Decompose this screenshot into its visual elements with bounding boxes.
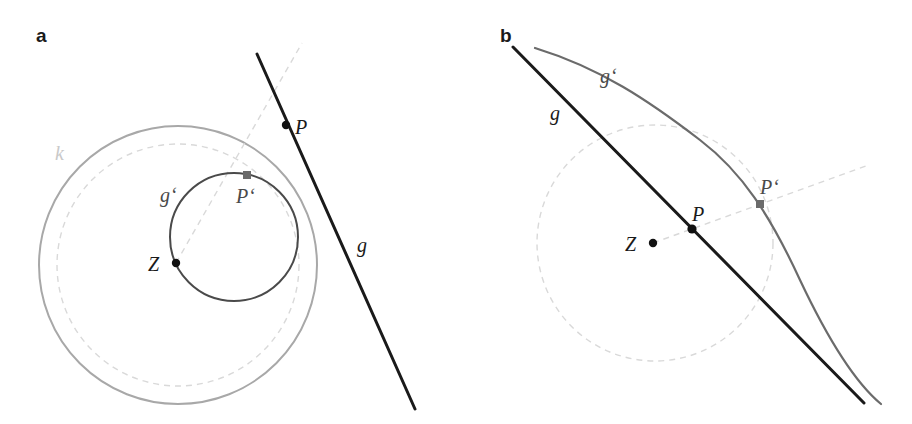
figure-canvas: a b kgg‘PP‘Z gg‘PP‘Z [0, 0, 912, 424]
label-line-label: g [550, 103, 560, 123]
label-image-point-label: P‘ [236, 186, 255, 206]
panel-b-graphics [0, 0, 912, 424]
label-center-label: Z [625, 234, 636, 254]
point-Pp [756, 200, 764, 208]
label-image-curve-label: g‘ [600, 66, 617, 86]
panel-b-letter: b [500, 26, 512, 45]
panel-a-letter: a [36, 26, 47, 45]
label-line-label: g [357, 235, 367, 255]
panel-b-line-g [513, 47, 864, 403]
label-inversion-circle-label: k [55, 143, 64, 163]
panel-b-curve-g-prime [535, 48, 881, 404]
label-point-label: P [692, 204, 704, 224]
point-P [687, 224, 696, 233]
label-image-point-label: P‘ [760, 177, 779, 197]
label-point-label: P [295, 117, 307, 137]
label-center-label: Z [148, 254, 159, 274]
point-Z [649, 239, 657, 247]
label-image-circle-label: g‘ [160, 185, 177, 205]
